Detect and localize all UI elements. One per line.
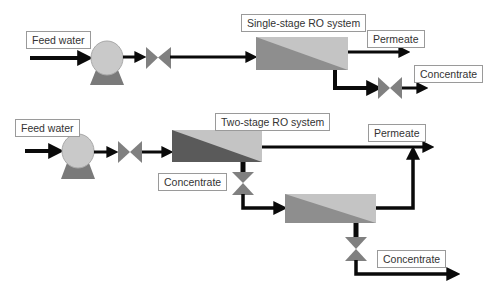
single-ro-membrane-icon: [256, 37, 348, 70]
stage1-ro-membrane-icon: [172, 130, 262, 162]
interstage-feed-line: [243, 194, 281, 208]
single-permeate-label: Permeate: [367, 30, 425, 48]
single-valve-icon: [146, 47, 171, 69]
stage2-ro-membrane-icon: [285, 194, 376, 223]
two-feed-water-label: Feed water: [15, 119, 80, 137]
two-pump-icon: [61, 134, 95, 179]
two-permeate-label: Permeate: [368, 124, 426, 142]
stage2-permeate-line: [376, 152, 413, 208]
single-feed-water-label: Feed water: [26, 31, 91, 49]
final-concentrate-label: Concentrate: [377, 250, 446, 268]
interstage-concentrate-label: Concentrate: [158, 173, 227, 191]
two-stage-title-label: Two-stage RO system: [215, 113, 330, 131]
single-concentrate-line: [335, 70, 375, 88]
single-concentrate-label: Concentrate: [414, 65, 483, 83]
final-concentrate-valve-icon: [345, 237, 367, 261]
single-pump-icon: [90, 41, 124, 85]
single-concentrate-valve-icon: [378, 77, 402, 99]
single-stage-title-label: Single-stage RO system: [241, 14, 366, 32]
two-valve-icon: [118, 141, 142, 163]
interstage-valve-icon: [232, 172, 254, 195]
